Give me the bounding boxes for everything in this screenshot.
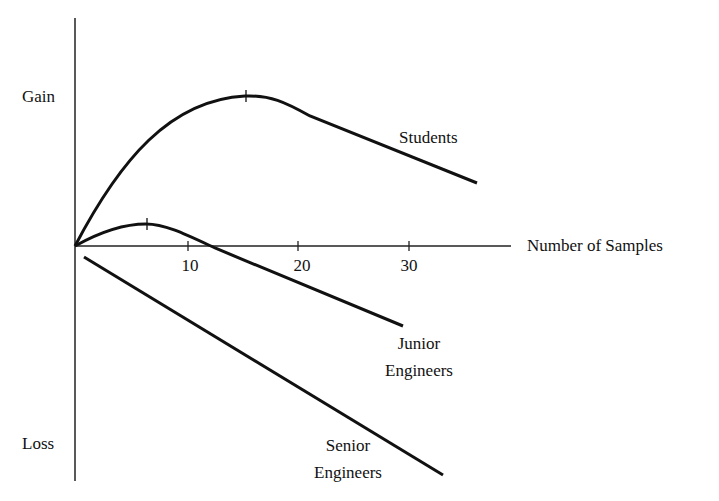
y-label-loss: Loss xyxy=(22,434,54,454)
x-tick-20: 20 xyxy=(294,256,311,276)
senior-label-line2: Engineers xyxy=(306,463,390,483)
x-axis-label: Number of Samples xyxy=(527,236,663,256)
x-tick-10: 10 xyxy=(182,256,199,276)
x-tick-30: 30 xyxy=(401,256,418,276)
junior-label-line1: Junior xyxy=(377,334,461,354)
series-junior-engineers-line xyxy=(75,224,403,326)
series-label-students: Students xyxy=(399,128,458,148)
senior-label-line1: Senior xyxy=(306,436,390,456)
junior-label-line2: Engineers xyxy=(377,361,461,381)
series-label-senior-engineers: Senior Engineers xyxy=(306,436,390,483)
series-label-junior-engineers: Junior Engineers xyxy=(377,334,461,381)
y-label-gain: Gain xyxy=(22,87,55,107)
